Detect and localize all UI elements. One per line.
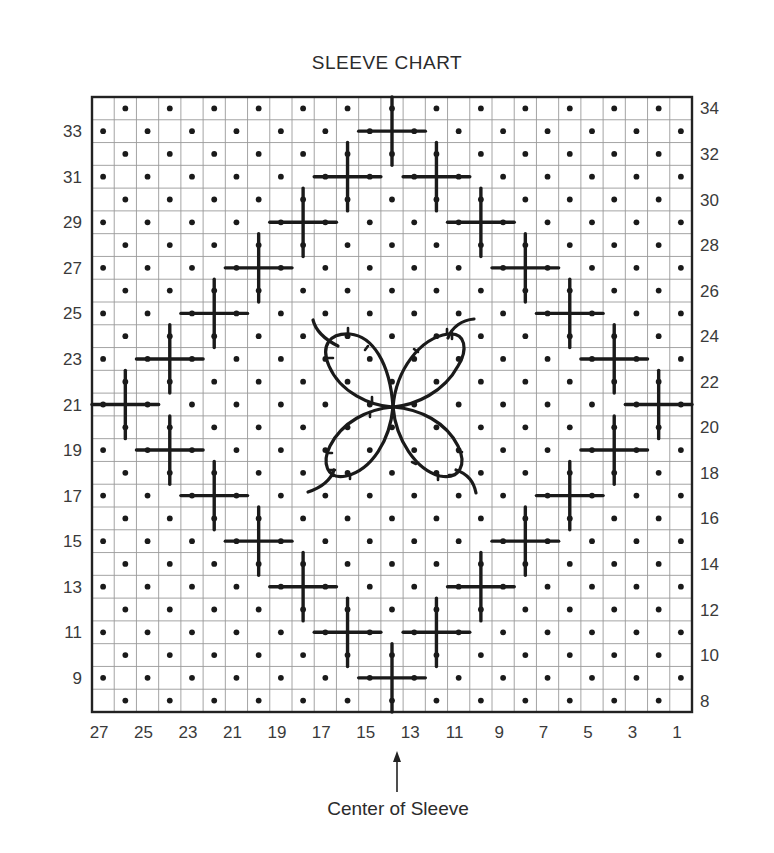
purl-dot [522,652,528,658]
row-label: 14 [700,555,719,574]
purl-dot [122,561,128,567]
purl-dot [678,447,684,453]
center-arrow-icon [393,751,401,792]
purl-dot [322,493,328,499]
purl-dot [322,538,328,544]
row-label: 23 [63,350,82,369]
purl-dot [567,424,573,430]
purl-dot [145,310,151,316]
purl-dot [256,105,262,111]
column-label: 25 [134,723,153,742]
purl-dot [211,197,217,203]
row-label: 8 [700,692,709,711]
row-label: 29 [63,213,82,232]
purl-dot [500,310,506,316]
purl-dot [211,379,217,385]
row-label: 32 [700,145,719,164]
purl-dot [411,584,417,590]
purl-dot [389,515,395,521]
purl-dot [656,561,662,567]
purl-dot [367,584,373,590]
purl-dot [567,105,573,111]
purl-dot [634,219,640,225]
purl-dot [100,128,106,134]
purl-dot [256,379,262,385]
butterfly-motif [308,319,476,493]
purl-dot [234,402,240,408]
cross-icon [92,370,159,438]
purl-dot [678,310,684,316]
purl-dot [678,584,684,590]
purl-dot [634,538,640,544]
purl-dot [500,128,506,134]
purl-dot [611,105,617,111]
purl-dot [411,493,417,499]
purl-dot [678,219,684,225]
purl-dot [100,447,106,453]
row-label: 25 [63,304,82,323]
purl-dot [634,629,640,635]
purl-dot [278,310,284,316]
purl-dot [367,493,373,499]
purl-dot [500,675,506,681]
purl-dot [189,265,195,271]
purl-dot [189,675,195,681]
purl-dot [145,538,151,544]
purl-dot [589,584,595,590]
purl-dot [589,174,595,180]
row-label: 34 [700,99,719,118]
purl-dot [389,470,395,476]
purl-dot [478,652,484,658]
purl-dot [611,197,617,203]
purl-dot [522,607,528,613]
purl-dot [656,288,662,294]
cross-icon [492,234,559,302]
purl-dot [256,333,262,339]
row-label: 11 [64,623,82,642]
purl-dot [522,151,528,157]
purl-dot [456,538,462,544]
purl-dot [500,402,506,408]
purl-dot [678,493,684,499]
purl-dot [389,197,395,203]
purl-dot [478,151,484,157]
purl-dot [611,288,617,294]
purl-dot [434,698,440,704]
purl-dot [278,174,284,180]
purl-dot [189,629,195,635]
purl-dot [189,128,195,134]
purl-dot [589,402,595,408]
purl-dot [656,197,662,203]
purl-dot [500,629,506,635]
column-label: 23 [179,723,198,742]
purl-dot [211,607,217,613]
cross-icon [536,279,603,347]
row-label: 33 [63,122,82,141]
cross-icon [225,234,292,302]
column-label: 5 [583,723,592,742]
purl-dot [611,607,617,613]
purl-dot [122,698,128,704]
column-label: 21 [223,723,242,742]
purl-dot [567,652,573,658]
column-label: 1 [672,723,681,742]
purl-dot [634,310,640,316]
purl-dot [545,584,551,590]
purl-dot [211,561,217,567]
cross-icon [136,325,203,393]
purl-dot [167,561,173,567]
purl-dot [389,561,395,567]
purl-dot [256,470,262,476]
purl-dot [611,515,617,521]
purl-dot [100,219,106,225]
purl-dot [522,333,528,339]
purl-dot [367,219,373,225]
purl-dot [389,607,395,613]
purl-dot [234,219,240,225]
cross-icon [625,370,692,438]
purl-dot [589,675,595,681]
purl-dot [434,242,440,248]
purl-dot [678,265,684,271]
purl-dot [411,310,417,316]
purl-dot [300,424,306,430]
